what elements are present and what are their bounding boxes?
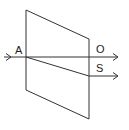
birefringence-diagram: A O S — [0, 0, 129, 130]
label-ordinary-ray-o: O — [96, 43, 105, 55]
label-entry-point-a: A — [15, 44, 23, 56]
crystal-slab — [26, 10, 89, 119]
diagram-canvas: A O S — [0, 0, 129, 130]
label-extraordinary-ray-s: S — [96, 62, 103, 74]
extraordinary-ray — [26, 57, 118, 76]
